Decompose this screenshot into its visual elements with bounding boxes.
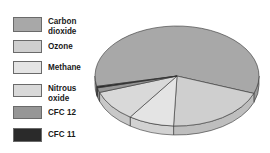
pie-top-slices <box>95 26 259 126</box>
pie-chart-3d <box>0 0 270 153</box>
